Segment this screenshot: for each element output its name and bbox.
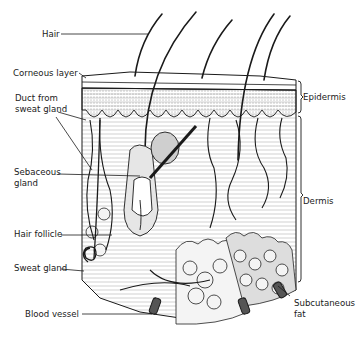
- label-hair: Hair: [42, 29, 60, 40]
- label-subcutaneous-line2: fat: [294, 309, 355, 320]
- hair-follicle-structure: [124, 145, 158, 236]
- label-subcutaneous-line1: Subcutaneous: [294, 298, 355, 309]
- skin-diagram: Hair Corneous layer Duct from sweat glan…: [0, 0, 364, 338]
- label-blood-vessel: Blood vessel: [25, 309, 79, 320]
- label-duct-line1: Duct from: [15, 93, 67, 104]
- label-duct-line2: sweat gland: [15, 104, 67, 115]
- epidermis-layer: [82, 88, 296, 117]
- corneous-layer-surface: [82, 72, 296, 90]
- label-dermis: Dermis: [303, 196, 334, 207]
- label-corneous-layer: Corneous layer: [13, 68, 78, 79]
- label-sebaceous-gland: Sebaceous gland: [14, 167, 61, 189]
- label-subcutaneous-fat: Subcutaneous fat: [294, 298, 355, 320]
- label-hair-follicle: Hair follicle: [14, 229, 62, 240]
- brackets: [298, 81, 303, 282]
- label-duct-from-sweat-gland: Duct from sweat gland: [15, 93, 67, 115]
- label-sebaceous-line1: Sebaceous: [14, 167, 61, 178]
- label-sebaceous-line2: gland: [14, 178, 61, 189]
- label-epidermis: Epidermis: [303, 92, 346, 103]
- label-sweat-gland: Sweat gland: [14, 263, 67, 274]
